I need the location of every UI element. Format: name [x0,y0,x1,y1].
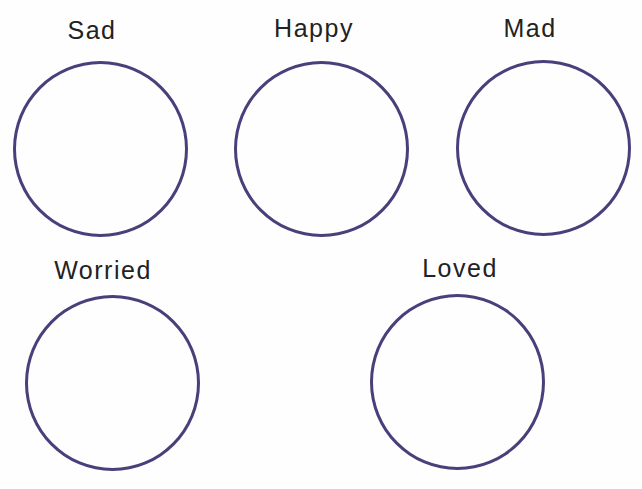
circle-sad[interactable] [13,61,188,237]
circle-mad[interactable] [456,60,631,236]
label-mad: Mad [503,16,556,41]
circle-loved[interactable] [370,294,545,470]
circle-worried[interactable] [25,295,200,471]
circle-happy[interactable] [234,61,409,237]
emotions-worksheet: Sad Happy Mad Worried Loved [0,0,642,489]
label-happy: Happy [274,16,354,41]
label-sad: Sad [68,18,117,43]
label-loved: Loved [422,256,498,281]
label-worried: Worried [54,258,152,283]
